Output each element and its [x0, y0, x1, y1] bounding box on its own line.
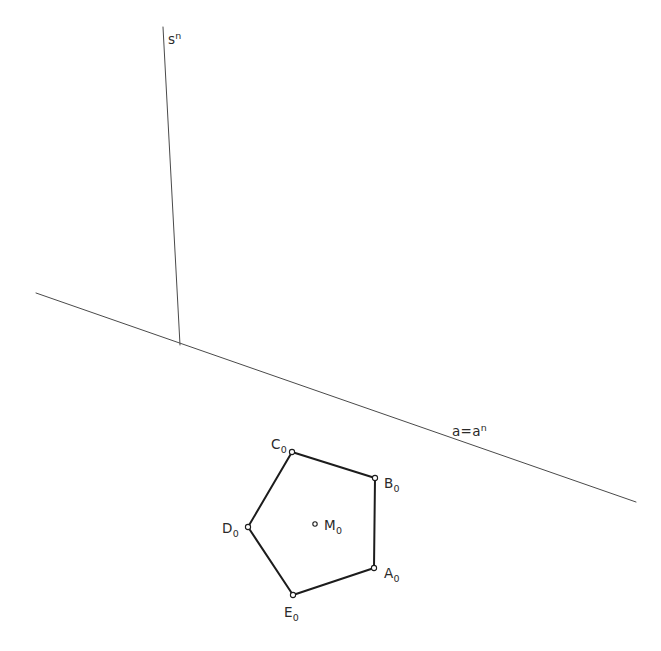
drawing-canvas: sn a=an A0B0C0D0E0 M0 — [0, 0, 661, 651]
pentagon-vertex-layer: A0B0C0D0E0 — [222, 436, 400, 623]
vertex-label-a0-subscript: 0 — [394, 573, 400, 584]
trace-line-a-label-superscript: n — [481, 422, 487, 433]
center-marker-m0 — [313, 522, 317, 526]
pentagon-outline — [248, 452, 375, 595]
vertex-label-d0-subscript: 0 — [233, 528, 239, 539]
vertex-label-d0: D0 — [222, 520, 239, 539]
center-label-m0-subscript: 0 — [336, 525, 342, 536]
pentagon-center-layer: M0 — [313, 517, 343, 536]
center-label-m0-base: M — [324, 517, 336, 533]
axis-line-s-label-superscript: n — [175, 30, 181, 41]
axis-line-s-label-base: s — [168, 31, 175, 47]
vertex-label-a0-base: A — [384, 565, 394, 581]
trace-line-a-label: a=an — [452, 422, 487, 439]
vertex-label-c0: C0 — [271, 436, 287, 455]
axis-line-s-group: sn — [163, 27, 182, 345]
trace-line-a-group: a=an — [36, 293, 636, 502]
center-label-m0: M0 — [324, 517, 342, 536]
vertex-label-b0: B0 — [384, 475, 400, 494]
trace-line-a — [36, 293, 636, 502]
vertex-label-b0-subscript: 0 — [394, 483, 400, 494]
vertex-marker-b0 — [372, 475, 377, 480]
vertex-label-b0-base: B — [384, 475, 394, 491]
vertex-label-e0: E0 — [284, 604, 299, 623]
vertex-marker-e0 — [290, 592, 295, 597]
vertex-label-e0-base: E — [284, 604, 293, 620]
vertex-marker-a0 — [371, 565, 376, 570]
vertex-marker-d0 — [245, 524, 250, 529]
geometry-figure: sn a=an A0B0C0D0E0 M0 — [0, 0, 661, 651]
vertex-label-e0-subscript: 0 — [293, 612, 299, 623]
vertex-label-d0-base: D — [222, 520, 233, 536]
vertex-label-c0-subscript: 0 — [281, 444, 287, 455]
axis-line-s-label: sn — [168, 30, 182, 47]
trace-line-a-label-base: a=a — [452, 423, 481, 439]
vertex-label-c0-base: C — [271, 436, 281, 452]
vertex-label-a0: A0 — [384, 565, 400, 584]
axis-line-s — [163, 27, 180, 345]
vertex-marker-c0 — [289, 449, 294, 454]
